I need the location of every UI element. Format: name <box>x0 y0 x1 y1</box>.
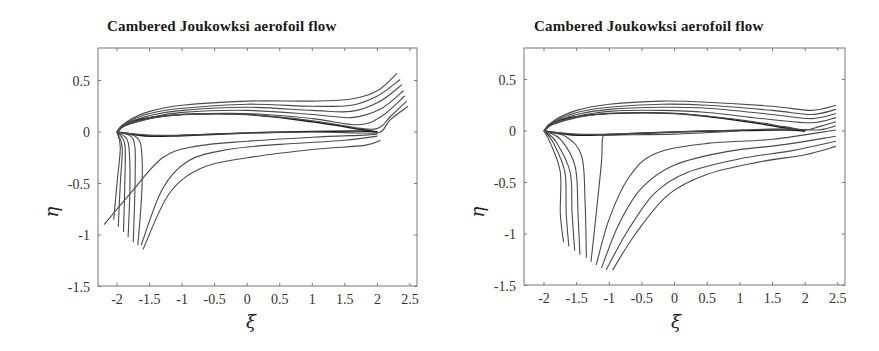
plot-left: -2-1.5-1-0.500.511.522.50.50-0.5-1-1.5ξη <box>41 48 419 332</box>
x-axis-label: ξ <box>671 311 682 332</box>
axes-frame <box>98 48 417 286</box>
streamline <box>143 140 381 249</box>
streamline-plots: -2-1.5-1-0.500.511.522.50.50-0.5-1-1.5ξη… <box>0 0 879 351</box>
x-tick-label: -2 <box>538 291 550 306</box>
x-tick-label: 0.5 <box>699 291 717 306</box>
streamline <box>117 73 397 132</box>
y-tick-label: -0.5 <box>68 177 90 192</box>
streamline <box>117 80 400 133</box>
y-tick-label: 0.5 <box>73 74 91 89</box>
streamlines <box>104 73 408 249</box>
axes-frame <box>524 48 845 285</box>
streamline <box>606 141 836 270</box>
x-tick-label: -0.5 <box>631 291 653 306</box>
x-tick-label: 1 <box>309 292 316 307</box>
x-tick-label: 0.5 <box>271 292 289 307</box>
streamline <box>117 101 407 132</box>
y-tick-label: -1 <box>504 227 516 242</box>
x-tick-label: 2.5 <box>401 292 419 307</box>
x-tick-label: -1 <box>603 291 615 306</box>
x-tick-label: 0 <box>671 291 678 306</box>
streamline <box>544 131 580 255</box>
streamline <box>544 131 569 246</box>
x-tick-label: -1.5 <box>138 292 160 307</box>
x-tick-label: -0.5 <box>204 292 226 307</box>
y-tick-label: -0.5 <box>494 176 516 191</box>
x-tick-label: 2.5 <box>829 291 847 306</box>
x-tick-label: 1.5 <box>336 292 354 307</box>
y-tick-label: -1.5 <box>68 280 90 295</box>
streamline <box>596 130 836 265</box>
streamlines <box>544 101 836 270</box>
x-tick-label: 1 <box>736 291 743 306</box>
x-tick-label: 0 <box>244 292 251 307</box>
streamline <box>544 131 575 251</box>
x-tick-label: 2 <box>374 292 381 307</box>
x-tick-label: 1.5 <box>764 291 782 306</box>
streamline <box>544 131 564 242</box>
y-tick-label: 0 <box>509 124 516 139</box>
plot-right: -2-1.5-1-0.500.511.522.50.50-0.5-1-1.5ξη <box>467 48 847 332</box>
x-tick-label: -1 <box>176 292 188 307</box>
y-tick-label: -1 <box>78 228 90 243</box>
y-tick-label: 0.5 <box>499 73 517 88</box>
x-tick-label: -1.5 <box>566 291 588 306</box>
y-axis-label: η <box>41 206 62 217</box>
streamline <box>544 131 586 258</box>
x-tick-label: 2 <box>802 291 809 306</box>
y-tick-label: -1.5 <box>494 279 516 294</box>
streamline <box>141 136 377 245</box>
x-axis-label: ξ <box>246 311 257 332</box>
streamline <box>613 146 836 270</box>
y-tick-label: 0 <box>83 125 90 140</box>
x-tick-label: -2 <box>111 292 123 307</box>
y-axis-label: η <box>467 206 488 217</box>
